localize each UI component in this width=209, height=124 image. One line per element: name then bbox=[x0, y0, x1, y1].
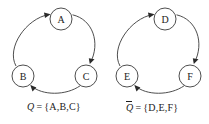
node-b[interactable]: B bbox=[12, 65, 34, 87]
edge-f-to-e-path bbox=[136, 86, 185, 94]
right-caption-equals: = bbox=[133, 102, 143, 113]
edge-e-to-d-arrowhead bbox=[148, 13, 155, 19]
edge-f-to-e-arrowhead bbox=[134, 85, 140, 92]
edge-b-to-a-path bbox=[13, 15, 49, 67]
right-cluster-group: D E F bbox=[116, 8, 201, 93]
left-caption-set: {A,B,C} bbox=[44, 101, 81, 112]
node-c[interactable]: C bbox=[75, 65, 97, 87]
edge-f-to-e bbox=[134, 85, 184, 93]
node-b-label: B bbox=[20, 71, 27, 82]
right-caption-set: {D,E,F} bbox=[143, 102, 178, 113]
edge-b-to-a-arrowhead bbox=[44, 13, 51, 19]
node-f-label: F bbox=[187, 71, 193, 82]
edge-b-to-a bbox=[13, 13, 50, 67]
edge-c-to-b-path bbox=[32, 86, 81, 94]
right-cluster-caption: Q={D,E,F} bbox=[126, 101, 178, 113]
edge-a-to-c-arrowhead bbox=[89, 58, 95, 64]
edge-d-to-f bbox=[177, 15, 199, 64]
edge-e-to-d bbox=[117, 13, 154, 67]
edge-d-to-f-path bbox=[177, 15, 199, 63]
edge-e-to-d-path bbox=[117, 15, 153, 67]
node-e-label: E bbox=[124, 71, 130, 82]
edge-d-to-f-arrowhead bbox=[193, 58, 199, 64]
node-c-label: C bbox=[83, 71, 90, 82]
node-e[interactable]: E bbox=[116, 65, 138, 87]
left-caption-equals: = bbox=[34, 101, 44, 112]
left-cluster-caption: Q={A,B,C} bbox=[27, 101, 81, 112]
edge-a-to-c bbox=[73, 15, 95, 64]
node-d-label: D bbox=[161, 14, 168, 25]
node-f[interactable]: F bbox=[179, 65, 201, 87]
node-d[interactable]: D bbox=[154, 8, 176, 30]
right-caption-symbol: Q bbox=[126, 101, 133, 113]
cycle-diagram-figure: A B C bbox=[0, 0, 209, 124]
edge-a-to-c-path bbox=[73, 15, 95, 63]
edge-c-to-b bbox=[30, 85, 80, 93]
node-a[interactable]: A bbox=[50, 8, 72, 30]
edge-c-to-b-arrowhead bbox=[30, 85, 36, 92]
node-a-label: A bbox=[57, 14, 65, 25]
left-cluster-group: A B C bbox=[12, 8, 97, 93]
